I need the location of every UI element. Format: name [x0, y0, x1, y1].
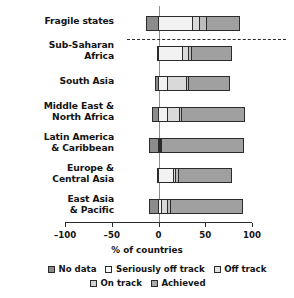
legend-item-off-track[interactable]: Off track — [214, 265, 267, 274]
axis-tick-label: 0 — [139, 230, 179, 240]
bar-latin-america-caribbean — [149, 138, 243, 153]
category-label-europe-central-asia: Europe &Central Asia — [0, 163, 120, 184]
axis-tick-label: 50 — [185, 230, 225, 240]
category-label-line: North Africa — [0, 112, 114, 123]
legend-row: On trackAchieved — [0, 276, 294, 290]
legend-item-on-track[interactable]: On track — [90, 279, 142, 288]
bar-segment-seriously-off-track — [159, 108, 167, 121]
axis-tick — [112, 223, 113, 227]
legend-item-no-data[interactable]: No data — [48, 265, 96, 274]
legend-label: Off track — [224, 265, 266, 274]
legend-label: Seriously off track — [116, 265, 205, 274]
bar-segment-achieved — [171, 200, 241, 213]
legend-swatch-icon — [105, 266, 112, 273]
axis-tick-label: –50 — [92, 230, 132, 240]
category-label-line: & Caribbean — [0, 143, 114, 154]
axis-title: % of countries — [0, 245, 294, 255]
bar-east-asia-pacific — [149, 199, 243, 214]
legend-swatch-icon — [151, 280, 158, 287]
axis-tick — [65, 223, 66, 227]
plot-area: Fragile statesSub-SaharanAfricaSouth Asi… — [0, 0, 294, 232]
axis-tick — [252, 223, 253, 227]
chart-legend: No dataSeriously off trackOff trackOn tr… — [0, 262, 294, 290]
x-axis: –100–50050100 — [0, 0, 294, 1]
axis-tick-label: 100 — [232, 230, 272, 240]
bar-segment-achieved — [192, 47, 231, 60]
category-label-latin-america-caribbean: Latin America& Caribbean — [0, 132, 120, 153]
legend-label: Achieved — [161, 279, 205, 288]
category-label-line: Sub-Saharan — [0, 40, 114, 51]
category-label-east-asia-pacific: East Asia& Pacific — [0, 194, 120, 215]
axis-tick — [159, 223, 160, 227]
category-label-line: Africa — [0, 51, 114, 62]
category-label-fragile-states: Fragile states — [0, 16, 120, 27]
legend-label: No data — [59, 265, 97, 274]
bar-segment-achieved — [207, 17, 239, 30]
bar-segment-seriously-off-track — [159, 169, 174, 182]
category-label-line: Fragile states — [0, 16, 114, 27]
category-label-line: Europe & — [0, 163, 114, 174]
fragile-states-separator — [127, 39, 286, 40]
legend-label: On track — [101, 279, 142, 288]
legend-swatch-icon — [48, 266, 55, 273]
bar-segment-seriously-off-track — [159, 17, 193, 30]
bar-segment-off-track — [193, 17, 200, 30]
bar-europe-central-asia — [157, 168, 233, 183]
chart-root: Fragile statesSub-SaharanAfricaSouth Asi… — [0, 0, 294, 298]
bar-segment-off-track — [168, 108, 181, 121]
category-label-line: Central Asia — [0, 174, 114, 185]
bar-segment-no-data — [150, 200, 159, 213]
bar-segment-seriously-off-track — [159, 77, 168, 90]
bar-segment-achieved — [182, 108, 244, 121]
bar-segment-off-track — [168, 77, 186, 90]
category-label-south-asia: South Asia — [0, 76, 120, 87]
category-label-line: Middle East & — [0, 101, 114, 112]
bar-middle-east-north-africa — [152, 107, 246, 122]
legend-item-seriously-off-track[interactable]: Seriously off track — [105, 265, 204, 274]
category-label-line: South Asia — [0, 76, 114, 87]
bar-segment-seriously-off-track — [159, 47, 183, 60]
bar-segment-achieved — [189, 77, 230, 90]
legend-swatch-icon — [214, 266, 221, 273]
category-label-line: & Pacific — [0, 205, 114, 216]
bar-segment-achieved — [162, 139, 242, 152]
legend-item-achieved[interactable]: Achieved — [151, 279, 206, 288]
category-label-line: Latin America — [0, 132, 114, 143]
category-label-line: East Asia — [0, 194, 114, 205]
legend-row: No dataSeriously off trackOff track — [0, 262, 294, 276]
category-label-sub-saharan-africa: Sub-SaharanAfrica — [0, 40, 120, 61]
category-label-middle-east-north-africa: Middle East &North Africa — [0, 101, 120, 122]
bar-sub-saharan-africa — [157, 46, 233, 61]
bar-segment-no-data — [147, 17, 159, 30]
legend-swatch-icon — [90, 280, 97, 287]
axis-tick-label: –100 — [45, 230, 85, 240]
bar-segment-no-data — [150, 139, 159, 152]
axis-tick — [205, 223, 206, 227]
bar-segment-achieved — [179, 169, 232, 182]
bar-fragile-states — [146, 16, 240, 31]
bar-south-asia — [155, 76, 231, 91]
